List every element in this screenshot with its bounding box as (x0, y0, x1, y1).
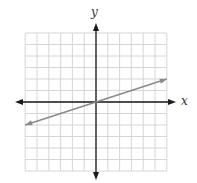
coordinate-plane (0, 0, 197, 183)
x-axis-right-arrow-icon (168, 99, 176, 105)
x-axis-left-arrow-icon (15, 99, 23, 105)
y-axis-up-arrow-icon (93, 23, 99, 31)
line-start-arrow-icon (25, 120, 32, 125)
y-axis-label: y (91, 6, 98, 18)
line-end-arrow-icon (159, 79, 166, 84)
x-axis-label: x (181, 95, 188, 107)
y-axis-down-arrow-icon (93, 172, 99, 180)
